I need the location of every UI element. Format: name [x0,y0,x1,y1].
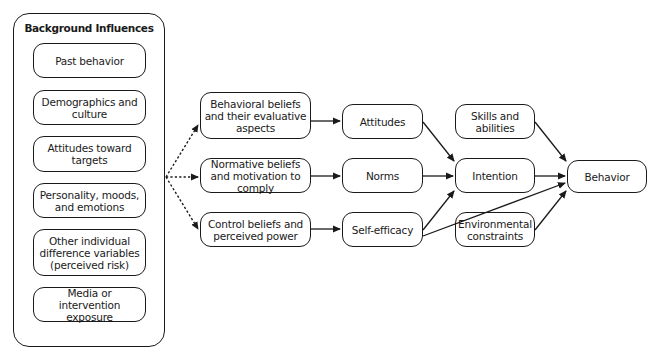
background-influences-title: Background Influences [14,22,164,34]
node-environmental-constraints: Environmental constraints [455,212,535,247]
node-demographics-culture: Demographics and culture [33,90,146,125]
node-control-beliefs: Control beliefs and perceived power [200,212,311,247]
node-self-efficacy: Self-efficacy [342,212,423,247]
node-behavioral-beliefs: Behavioral beliefs and their evaluative … [200,92,311,139]
node-attitudes-toward-targets: Attitudes toward targets [33,136,146,172]
node-other-individual-differences: Other individual difference variables (p… [33,229,146,276]
arrow-environment-behavior [535,191,566,230]
node-past-behavior: Past behavior [33,43,146,78]
dotted-arrow-control [166,177,198,229]
node-norms: Norms [342,158,423,193]
arrow-selfefficacy-intention [423,191,454,230]
arrow-attitudes-intention [423,122,454,161]
node-personality-moods-emotions: Personality, moods, and emotions [33,183,146,218]
node-media-intervention-exposure: Media or intervention exposure [33,287,146,322]
node-attitudes: Attitudes [342,104,423,139]
node-skills-abilities: Skills and abilities [455,104,535,139]
node-intention: Intention [455,158,535,193]
arrow-skills-behavior [535,122,566,161]
node-normative-beliefs: Normative beliefs and motivation to comp… [200,158,311,193]
dotted-arrow-behavioral [166,125,198,177]
node-behavior: Behavior [567,160,647,193]
